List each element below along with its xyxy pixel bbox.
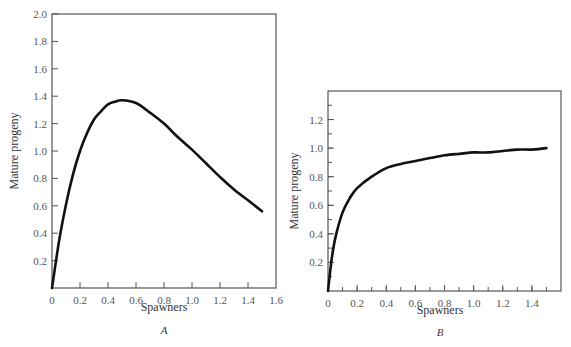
x-tick-label: 1.0: [467, 297, 481, 309]
y-tick-label: 0.2: [309, 256, 323, 268]
y-tick-label: 0.8: [309, 171, 323, 183]
x-tick-label: 0.2: [73, 294, 87, 306]
panel-a-label: A: [160, 324, 168, 336]
x-tick-label: 1.4: [525, 297, 539, 309]
panel-b-plot-frame: [328, 91, 561, 291]
panel-a-y-axis-title: Mature progeny: [7, 113, 21, 190]
x-tick-label: 0.2: [350, 297, 364, 309]
y-tick-label: 2.0: [33, 8, 47, 20]
panel-b-curve: [328, 148, 546, 291]
x-tick-label: 1.2: [213, 294, 227, 306]
panel-a-plot-frame: [52, 14, 276, 288]
panel-b-x-axis-title: Spawners: [417, 303, 464, 317]
y-tick-label: 0.4: [33, 227, 47, 239]
y-tick-label: 1.0: [309, 142, 323, 154]
y-tick-label: 1.6: [33, 63, 47, 75]
y-tick-label: 1.8: [33, 35, 47, 47]
x-tick-label: 1.6: [269, 294, 283, 306]
panel-a-y-axis: 0.20.40.60.81.01.21.41.61.82.0: [33, 8, 58, 267]
y-tick-label: 0.4: [309, 228, 323, 240]
x-tick-label: 0.4: [379, 297, 393, 309]
panel-a-x-axis-title: Spawners: [141, 300, 188, 314]
x-tick-label: 0: [325, 297, 331, 309]
x-tick-label: 1.4: [241, 294, 255, 306]
y-tick-label: 1.2: [309, 114, 323, 126]
panel-b-label: B: [437, 326, 444, 338]
panel-b-y-axis-title: Mature progeny: [287, 153, 301, 230]
y-tick-label: 1.2: [33, 118, 47, 130]
x-tick-label: 0.4: [101, 294, 115, 306]
y-tick-label: 0.8: [33, 172, 47, 184]
y-tick-label: 0.2: [33, 255, 47, 267]
panel-a-ricker-chart: 0.20.40.60.81.01.21.41.61.82.0 00.20.40.…: [7, 8, 283, 336]
panel-b-y-axis: 0.20.40.60.81.01.2: [309, 105, 334, 276]
x-tick-label: 1.2: [496, 297, 510, 309]
y-tick-label: 1.0: [33, 145, 47, 157]
panel-a-curve: [52, 100, 262, 288]
y-tick-label: 0.6: [309, 199, 323, 211]
x-tick-label: 0: [49, 294, 55, 306]
y-tick-label: 0.6: [33, 200, 47, 212]
figure: 0.20.40.60.81.01.21.41.61.82.0 00.20.40.…: [0, 0, 571, 347]
y-tick-label: 1.4: [33, 90, 47, 102]
panel-b-beverton-holt-chart: 0.20.40.60.81.01.2 00.20.40.60.81.01.21.…: [287, 91, 561, 338]
